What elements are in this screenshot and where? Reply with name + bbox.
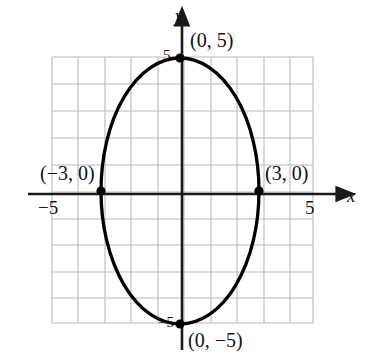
vertex-point-right — [254, 186, 263, 195]
ellipse-curve — [101, 58, 259, 324]
vertex-label-right: (3, 0) — [265, 163, 308, 183]
vertex-point-bottom — [175, 319, 184, 328]
vertex-markers — [96, 53, 263, 328]
ellipse-graph-figure: y x (0, 5) (3, 0) (0, −5) (−3, 0) −5 5 5… — [0, 0, 368, 363]
vertex-label-left: (−3, 0) — [40, 163, 95, 183]
vertex-label-top: (0, 5) — [190, 30, 233, 50]
vertex-point-left — [96, 186, 105, 195]
vertex-label-bottom: (0, −5) — [188, 330, 243, 350]
x-axis-label: x — [347, 186, 355, 205]
y-tick-label-positive-5: 5 — [163, 48, 171, 63]
y-axis-label: y — [175, 6, 183, 25]
vertex-point-top — [175, 53, 184, 62]
y-tick-label-negative-5: −5 — [158, 315, 174, 330]
x-tick-label-positive-5: 5 — [305, 198, 315, 217]
x-tick-label-negative-5: −5 — [38, 198, 58, 217]
